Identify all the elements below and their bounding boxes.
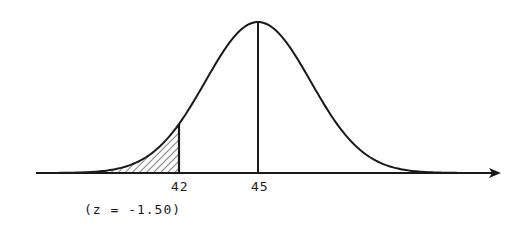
shaded-tail-region bbox=[50, 124, 179, 173]
z-score-annotation: (z = -1.50) bbox=[84, 202, 181, 217]
tick-label-45: 45 bbox=[251, 179, 269, 194]
normal-curve bbox=[50, 22, 470, 173]
tick-label-42: 42 bbox=[171, 179, 189, 194]
